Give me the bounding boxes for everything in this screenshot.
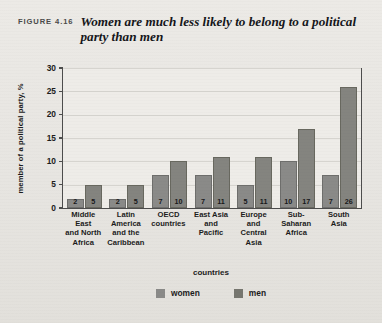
bar-group: 726: [318, 68, 361, 208]
legend-item-women: women: [156, 288, 200, 298]
x-axis-category-label: South Asia: [317, 210, 360, 247]
bar-men: 26: [340, 87, 357, 208]
x-axis-category-label: Middle East and North Africa: [62, 210, 105, 247]
bar-groups: 25257107115111017726: [63, 68, 361, 208]
bar-value-label: 11: [214, 198, 229, 205]
legend-label-women: women: [171, 288, 200, 298]
y-axis-tick-label: 15: [47, 133, 56, 141]
y-axis-tick-label: 10: [47, 157, 56, 165]
y-axis-tick-label: 5: [51, 180, 56, 188]
bar-women: 7: [195, 175, 212, 208]
bar-women: 10: [280, 161, 297, 208]
x-axis-category-label: East Asia and Pacific: [190, 210, 233, 247]
figure-header: FIGURE 4.16 Women are much less likely t…: [18, 14, 368, 44]
bar-value-label: 26: [341, 198, 356, 205]
bar-value-label: 7: [323, 198, 338, 205]
bar-women: 2: [67, 199, 84, 208]
bar-value-label: 7: [153, 198, 168, 205]
bar-women: 2: [109, 199, 126, 208]
bar-group: 1017: [276, 68, 319, 208]
legend-swatch-men-icon: [234, 289, 243, 298]
y-axis-title: member of a political party, %: [14, 68, 26, 208]
y-axis-tick-label: 25: [47, 87, 56, 95]
y-axis-tick-label: 0: [51, 203, 56, 211]
bar-value-label: 5: [86, 198, 101, 205]
bar-group: 25: [106, 68, 149, 208]
chart-legend: women men: [62, 288, 360, 298]
figure-title: Women are much less likely to belong to …: [80, 14, 368, 44]
bar-men: 11: [255, 157, 272, 208]
bar-value-label: 2: [110, 198, 125, 205]
legend-item-men: men: [234, 288, 266, 298]
bar-value-label: 10: [281, 198, 296, 205]
x-axis-category-label: Latin America and the Caribbean: [105, 210, 148, 247]
bar-value-label: 5: [238, 198, 253, 205]
bar-value-label: 11: [256, 198, 271, 205]
bar-women: 7: [322, 175, 339, 208]
bar-women: 5: [237, 185, 254, 208]
bar-men: 10: [170, 161, 187, 208]
figure-number: FIGURE 4.16: [18, 14, 73, 26]
bar-group: 711: [191, 68, 234, 208]
legend-swatch-women-icon: [156, 289, 165, 298]
x-axis-category-label: OECD countries: [147, 210, 190, 247]
bar-group: 25: [63, 68, 106, 208]
bar-group: 511: [233, 68, 276, 208]
bar-men: 17: [298, 129, 315, 208]
legend-label-men: men: [249, 288, 266, 298]
bar-value-label: 7: [196, 198, 211, 205]
chart-plot-area: 051015202530 25257107115111017726: [62, 68, 362, 209]
bar-value-label: 5: [128, 198, 143, 205]
y-axis-title-text: member of a political party, %: [16, 83, 25, 193]
y-axis-tick-label: 20: [47, 110, 56, 118]
bar-value-label: 10: [171, 198, 186, 205]
bar-men: 5: [85, 185, 102, 208]
bar-women: 7: [152, 175, 169, 208]
x-axis-category-label: Sub-Saharan Africa: [275, 210, 318, 247]
x-axis-category-label: Europe and Central Asia: [232, 210, 275, 247]
x-axis-title: countries: [62, 268, 360, 277]
y-axis-tick-label: 30: [47, 63, 56, 71]
bar-value-label: 2: [68, 198, 83, 205]
bar-value-label: 17: [299, 198, 314, 205]
x-axis-tick-labels: Middle East and North AfricaLatin Americ…: [62, 210, 360, 247]
bar-men: 11: [213, 157, 230, 208]
bar-group: 710: [148, 68, 191, 208]
figure-page: FIGURE 4.16 Women are much less likely t…: [0, 0, 382, 323]
bar-men: 5: [127, 185, 144, 208]
